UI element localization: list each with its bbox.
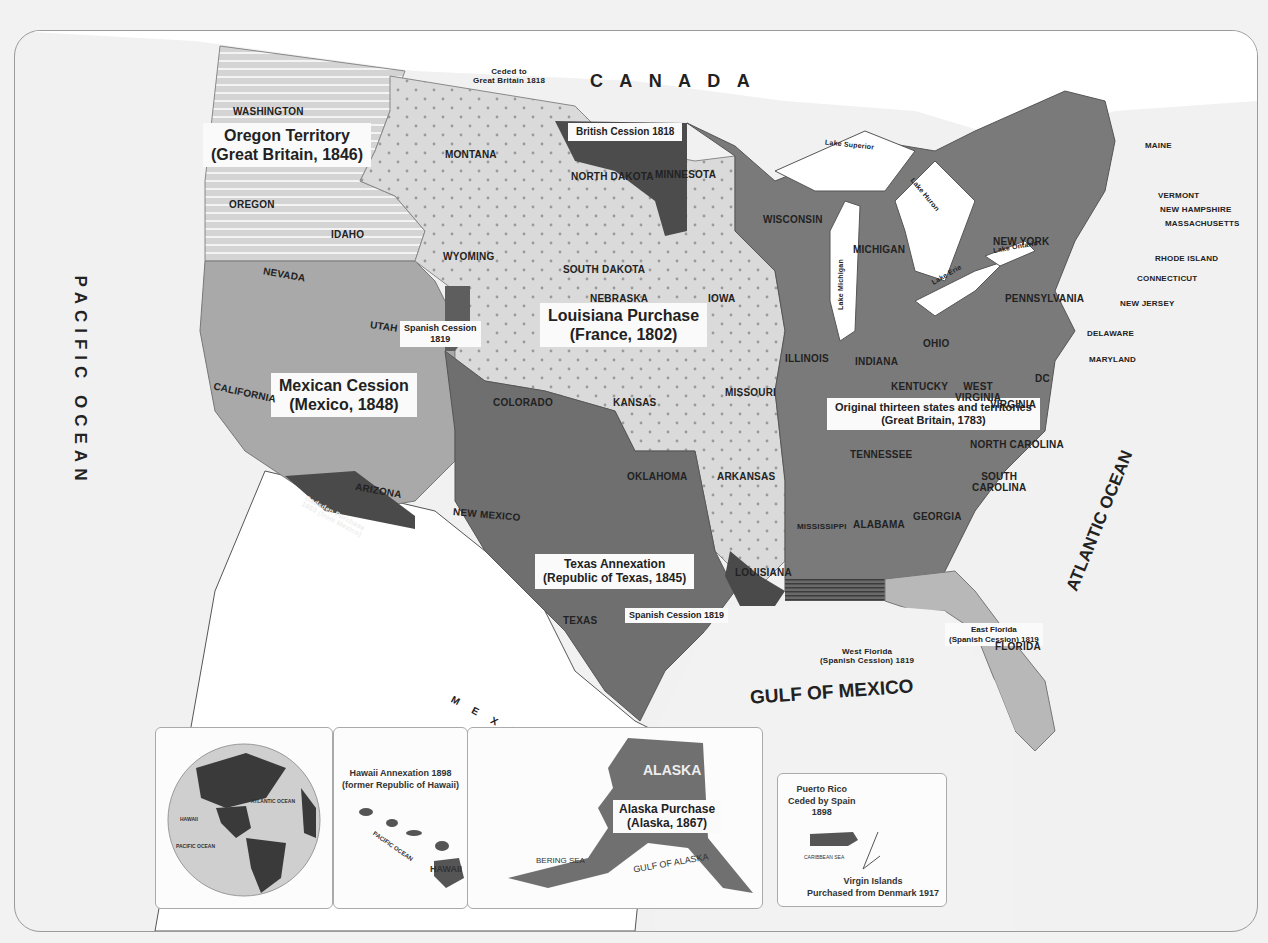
region-label-spanish-cession-co: Spanish Cession1819 <box>400 321 481 347</box>
state-label-idaho: IDAHO <box>331 229 364 240</box>
inset-globe: ATLANTIC OCEAN PACIFIC OCEAN HAWAII <box>155 727 333 909</box>
state-label-missouri: MISSOURI <box>725 387 776 398</box>
state-label-new-hampshire: NEW HAMPSHIRE <box>1160 205 1232 214</box>
state-label-iowa: IOWA <box>708 293 735 304</box>
puerto-rico-label-caribbean: CARIBBEAN SEA <box>804 854 844 861</box>
map-frame: C A N A D A M E X I C O PACIFIC OCEAN AT… <box>14 30 1258 932</box>
state-label-south-dakota: SOUTH DAKOTA <box>563 264 645 275</box>
state-label-louisiana: LOUISIANA <box>735 567 792 578</box>
state-label-oklahoma: OKLAHOMA <box>627 471 687 482</box>
inset-puerto-rico: Puerto RicoCeded by Spain1898 CARIBBEAN … <box>777 773 947 907</box>
region-label-louisiana: Louisiana Purchase(France, 1802) <box>540 303 707 347</box>
state-label-south-carolina: SOUTHCAROLINA <box>972 471 1026 493</box>
globe-label-atlantic: ATLANTIC OCEAN <box>251 798 295 805</box>
state-label-west-virginia: WESTVIRGINIA <box>955 381 1001 403</box>
state-label-massachusetts: MASSACHUSETTS <box>1165 219 1240 228</box>
globe-label-hawaii: HAWAII <box>180 816 198 823</box>
inset-hawaii: Hawaii Annexation 1898(former Republic o… <box>333 727 468 909</box>
ocean-label-pacific: PACIFIC OCEAN <box>70 276 90 487</box>
state-label-vermont: VERMONT <box>1158 191 1199 200</box>
state-label-dc: DC <box>1035 373 1050 384</box>
state-label-texas: TEXAS <box>563 615 597 626</box>
region-label-british-cession: British Cession 1818 <box>568 123 682 141</box>
state-label-maine: MAINE <box>1145 141 1172 150</box>
region-label-ceded-gb: Ceded toGreat Britain 1818 <box>473 67 545 85</box>
state-label-michigan: MICHIGAN <box>853 244 905 255</box>
state-label-kansas: KANSAS <box>613 397 656 408</box>
virgin-islands-label: Virgin IslandsPurchased from Denmark 191… <box>798 876 947 899</box>
alaska-purchase-label: Alaska Purchase(Alaska, 1867) <box>613 800 721 833</box>
region-label-texas: Texas Annexation(Republic of Texas, 1845… <box>535 554 694 589</box>
state-label-connecticut: CONNECTICUT <box>1137 274 1197 283</box>
state-label-wyoming: WYOMING <box>443 251 494 262</box>
globe-label-pacific: PACIFIC OCEAN <box>176 843 215 850</box>
state-label-new-york: NEW YORK <box>993 236 1049 247</box>
state-label-north-carolina: NORTH CAROLINA <box>970 439 1064 450</box>
state-label-oregon: OREGON <box>229 199 275 210</box>
alaska-label: ALASKA <box>643 761 701 779</box>
state-label-pennsylvania: PENNSYLVANIA <box>1005 293 1084 304</box>
state-label-kentucky: KENTUCKY <box>891 381 948 392</box>
region-label-spanish-cession-la: Spanish Cession 1819 <box>625 608 728 623</box>
hawaii-label: HAWAII <box>430 864 462 876</box>
state-label-north-dakota: NORTH DAKOTA <box>571 171 654 182</box>
state-label-colorado: COLORADO <box>493 397 553 408</box>
state-label-delaware: DELAWARE <box>1087 329 1134 338</box>
alaska-label-bering: BERING SEA <box>536 856 585 866</box>
region-label-mexican: Mexican Cession(Mexico, 1848) <box>271 373 417 417</box>
state-label-alabama: ALABAMA <box>853 519 905 530</box>
state-label-mississippi: MISSISSIPPI <box>797 522 847 531</box>
state-label-new-jersey: NEW JERSEY <box>1120 299 1174 308</box>
state-label-tennessee: TENNESSEE <box>850 449 912 460</box>
lake-label-michigan: Lake Michigan <box>837 259 844 310</box>
state-label-ohio: OHIO <box>923 338 949 349</box>
state-label-wisconsin: WISCONSIN <box>763 214 823 225</box>
country-label-canada: C A N A D A <box>590 71 756 92</box>
state-label-rhode-island: RHODE ISLAND <box>1155 254 1218 263</box>
hawaii-annexation-label: Hawaii Annexation 1898(former Republic o… <box>334 768 467 791</box>
hawaii-islands-icon <box>334 728 467 908</box>
region-west-florida <box>785 579 885 601</box>
state-label-washington: WASHINGTON <box>233 106 304 117</box>
state-label-maryland: MARYLAND <box>1089 355 1136 364</box>
state-label-georgia: GEORGIA <box>913 511 962 522</box>
puerto-rico-label: Puerto RicoCeded by Spain1898 <box>788 784 856 819</box>
state-label-minnesota: MINNESOTA <box>655 169 716 180</box>
state-label-illinois: ILLINOIS <box>785 353 829 364</box>
state-label-nebraska: NEBRASKA <box>590 293 648 304</box>
state-label-indiana: INDIANA <box>855 356 898 367</box>
inset-alaska: ALASKA Alaska Purchase(Alaska, 1867) BER… <box>467 727 763 909</box>
state-label-arkansas: ARKANSAS <box>717 471 775 482</box>
region-label-west-florida: West Florida(Spanish Cession) 1819 <box>820 647 914 665</box>
state-label-montana: MONTANA <box>445 149 497 160</box>
region-label-oregon: Oregon Territory(Great Britain, 1846) <box>203 123 371 167</box>
state-label-florida: FLORIDA <box>995 641 1041 652</box>
